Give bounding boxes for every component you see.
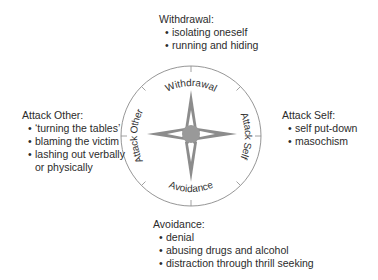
compass-star-icon (147, 90, 237, 182)
list-item: ‘turning the tables’ (28, 122, 125, 135)
list-item: blaming the victim (28, 135, 125, 148)
avoidance-block: Avoidance: denial abusing drugs and alco… (153, 218, 314, 270)
list-item: self put-down (288, 122, 357, 135)
attack-self-title: Attack Self: (282, 109, 357, 122)
list-item: distraction through thrill seeking (159, 257, 314, 270)
list-item: denial (159, 231, 314, 244)
withdrawal-block: Withdrawal: isolating oneself running an… (159, 13, 258, 52)
withdrawal-title: Withdrawal: (159, 13, 258, 26)
attack-other-block: Attack Other: ‘turning the tables’ blami… (22, 109, 125, 174)
list-item: running and hiding (165, 39, 258, 52)
compass-hub (182, 125, 200, 143)
attack-other-list: ‘turning the tables’ blaming the victim … (22, 122, 125, 174)
list-item-continuation: or physically (28, 161, 125, 174)
avoidance-title: Avoidance: (153, 218, 314, 231)
ring-label-withdrawal: Withdrawal (164, 77, 219, 94)
list-item: lashing out verbally (28, 148, 125, 161)
withdrawal-list: isolating oneself running and hiding (159, 26, 258, 52)
ring-label-attack-other: Attack Other (128, 106, 145, 164)
list-item: abusing drugs and alcohol (159, 244, 314, 257)
attack-self-list: self put-down masochism (282, 122, 357, 148)
ring-label-avoidance: Avoidance (168, 179, 215, 194)
list-item: masochism (288, 135, 357, 148)
list-item: isolating oneself (165, 26, 258, 39)
ring-label-attack-self: Attack Self (239, 111, 255, 161)
avoidance-list: denial abusing drugs and alcohol distrac… (153, 231, 314, 270)
attack-other-title: Attack Other: (22, 109, 125, 122)
attack-self-block: Attack Self: self put-down masochism (282, 109, 357, 148)
